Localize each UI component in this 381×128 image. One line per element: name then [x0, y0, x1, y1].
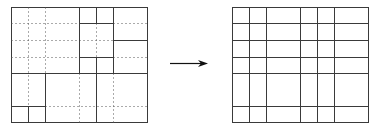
right-refined-grid — [233, 8, 369, 123]
right-arrow-icon — [170, 60, 208, 67]
right-grid-lines — [233, 8, 369, 123]
grid-refinement-diagram — [0, 0, 381, 128]
left-partition-grid — [12, 8, 148, 123]
left-grid-solid-partition-lines — [12, 8, 148, 123]
